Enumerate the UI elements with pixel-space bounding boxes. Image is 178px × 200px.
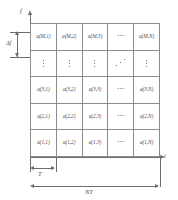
frequency-axis-label: f — [20, 7, 22, 14]
grid-cell-ellipsis — [57, 51, 83, 78]
grid-cell-ellipsis: ⋯ — [108, 24, 134, 51]
grid-cell: a(2,N) — [134, 104, 160, 131]
grid-cell-diagonal-ellipsis — [108, 51, 134, 78]
ofdm-resource-grid-figure: f t Δf a(M,1) a(M,2) a(M,3) ⋯ a(M,N) a(3… — [0, 0, 178, 200]
grid-cell: a(1,N) — [134, 130, 160, 157]
grid-cell-ellipsis — [31, 51, 57, 78]
symbol-duration-label: T — [38, 170, 42, 177]
grid-cell: a(1,3) — [83, 130, 109, 157]
subcarrier-spacing-label: Δf — [6, 40, 11, 46]
symbol-duration-arrow-right — [51, 166, 55, 170]
grid-cell: a(3,3) — [83, 77, 109, 104]
resource-grid: a(M,1) a(M,2) a(M,3) ⋯ a(M,N) a(3,1) a(3… — [30, 23, 160, 157]
total-duration-dimension-line — [32, 186, 158, 187]
symbol-duration-arrow-left — [30, 166, 34, 170]
grid-cell: a(M,N) — [134, 24, 160, 51]
subcarrier-spacing-tick-bottom — [10, 57, 31, 58]
total-duration-arrow-right — [155, 184, 159, 188]
grid-cell: a(2,2) — [57, 104, 83, 131]
symbol-duration-tick-right — [56, 157, 57, 172]
subcarrier-spacing-tick-top — [10, 32, 31, 33]
grid-cell: a(M,2) — [57, 24, 83, 51]
grid-cell: a(3,2) — [57, 77, 83, 104]
grid-cell: a(1,1) — [31, 130, 57, 157]
grid-cell: a(M,3) — [83, 24, 109, 51]
subcarrier-spacing-arrow-down — [15, 53, 19, 57]
grid-cell-ellipsis: ⋯ — [108, 130, 134, 157]
grid-cell-ellipsis — [134, 51, 160, 78]
grid-cell: a(2,3) — [83, 104, 109, 131]
total-duration-label: NT — [85, 188, 93, 195]
grid-cell-ellipsis: ⋯ — [108, 104, 134, 131]
total-duration-tick-right — [160, 157, 161, 187]
grid-cell: a(3,N) — [134, 77, 160, 104]
time-axis-line — [30, 157, 162, 158]
grid-cell-ellipsis: ⋯ — [108, 77, 134, 104]
total-duration-arrow-left — [30, 184, 34, 188]
frequency-axis-arrowhead — [28, 10, 32, 15]
subcarrier-spacing-arrow-up — [15, 31, 19, 35]
grid-cell: a(1,2) — [57, 130, 83, 157]
time-axis-label: t — [164, 152, 166, 159]
grid-cell: a(M,1) — [31, 24, 57, 51]
grid-cell-ellipsis — [83, 51, 109, 78]
grid-cell: a(2,1) — [31, 104, 57, 131]
grid-cell: a(3,1) — [31, 77, 57, 104]
